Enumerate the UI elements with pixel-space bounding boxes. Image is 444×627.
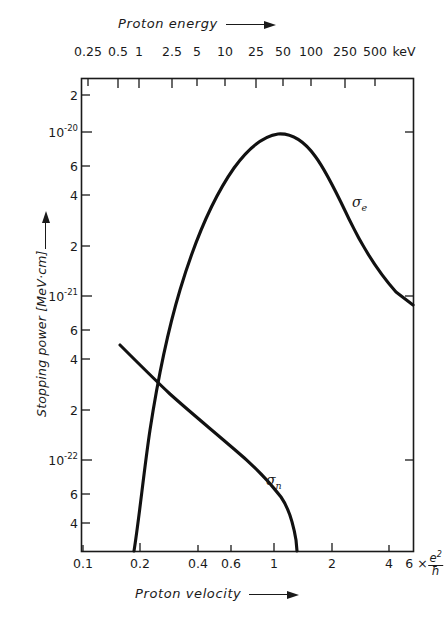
bottom-tick-label: 0.2 [130,556,150,571]
curve-label-sigma-n: σn [266,472,282,491]
bottom-tick-label: 1 [270,556,278,571]
plot-frame [82,79,414,552]
top-axis-ticks [88,79,375,89]
bottom-tick-label: 0.1 [73,556,93,571]
stopping-power-figure: Proton energy 0.25 0.5 1 2.5 5 10 25 50 … [0,0,444,627]
bottom-tick-label: 0.6 [221,556,241,571]
bottom-tick-label: 2 [328,556,336,571]
bottom-tick-label: 4 [385,556,393,571]
right-axis-ticks [405,132,414,460]
right-arrow-icon [249,590,303,599]
unit-denominator: ħ [429,566,443,578]
plot-area [0,0,444,627]
bottom-axis-unit-label: 6 ×e2ħ [405,552,443,576]
bottom-axis-title: Proton velocity [135,586,303,601]
curve-label-sigma-e: σe [352,194,367,213]
bottom-tick-label: 0.4 [188,556,208,571]
bottom-axis-ticks [83,543,389,552]
y-axis-ticks [82,95,93,523]
bottom-axis-title-text: Proton velocity [135,586,241,601]
